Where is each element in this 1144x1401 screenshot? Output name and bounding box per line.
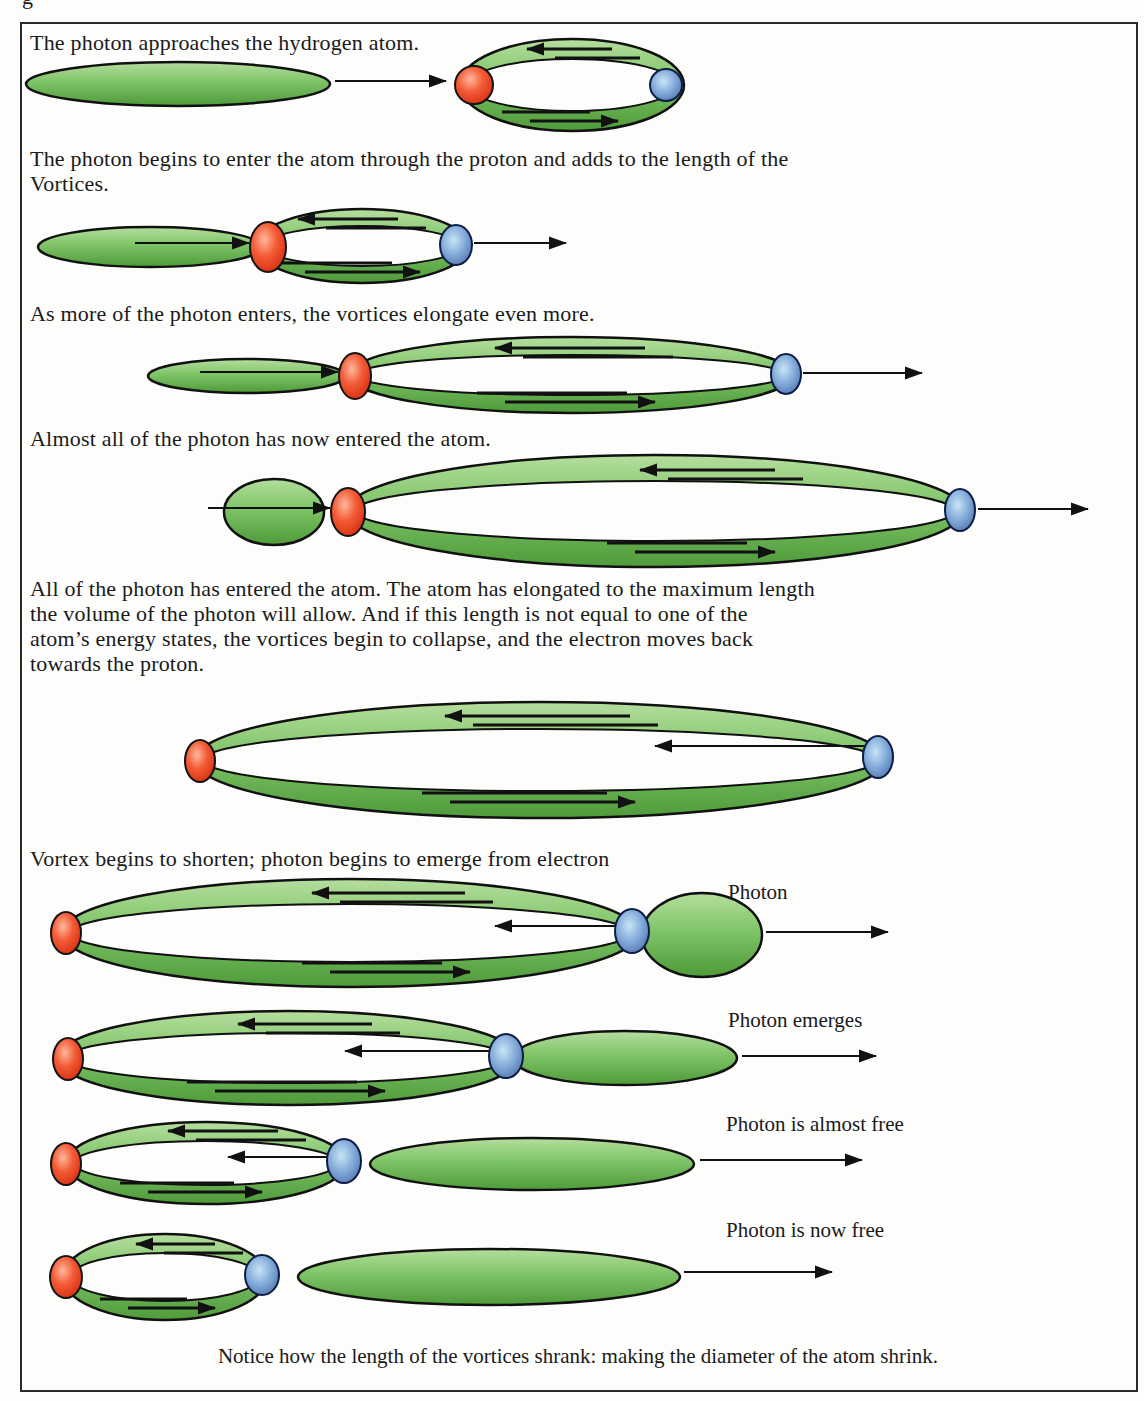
bottom-caption: Notice how the length of the vortices sh… <box>22 1344 1134 1369</box>
stage-label-photon-almost-free: Photon is almost free <box>726 1112 904 1136</box>
step-text-5: All of the photon has entered the atom. … <box>30 576 950 676</box>
step-text-3: As more of the photon enters, the vortic… <box>30 301 930 326</box>
step-text-6: Vortex begins to shorten; photon begins … <box>30 846 930 871</box>
step-text-4: Almost all of the photon has now entered… <box>30 426 930 451</box>
figure-frame <box>20 22 1138 1392</box>
cropped-text-fragment: g <box>22 0 33 10</box>
step-text-1: The photon approaches the hydrogen atom. <box>30 30 890 55</box>
stage-label-photon: Photon <box>728 880 788 904</box>
figure-page: g The photon approaches the hydrogen ato… <box>0 0 1144 1401</box>
stage-label-photon-emerges: Photon emerges <box>728 1008 862 1032</box>
step-text-2: The photon begins to enter the atom thro… <box>30 146 930 196</box>
stage-label-photon-now-free: Photon is now free <box>726 1218 884 1242</box>
